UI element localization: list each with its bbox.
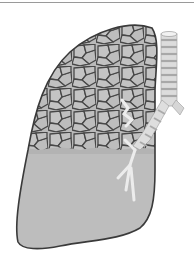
- lung-illustration: [0, 0, 194, 271]
- cropped-caption: [0, 264, 194, 271]
- lower-smooth-region: [0, 151, 194, 271]
